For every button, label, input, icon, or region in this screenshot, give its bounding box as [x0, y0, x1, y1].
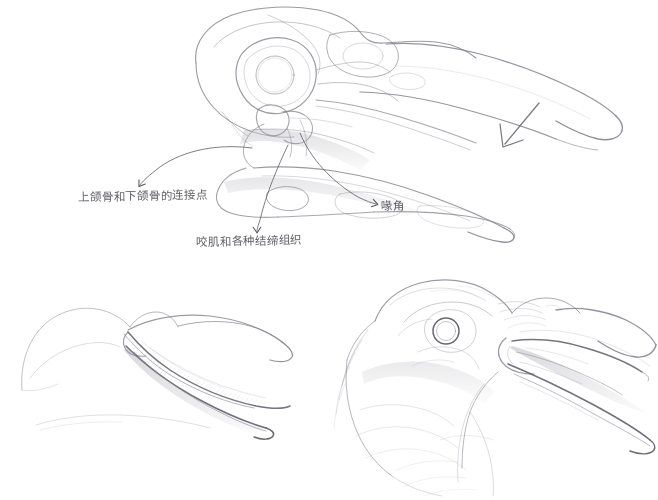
figure-skull-profile: [196, 7, 623, 242]
annotation-label-jaw-joint: 上颌骨和下颌骨的连接点: [78, 186, 208, 205]
annotation-label-beak-corner: 喙角: [381, 197, 405, 214]
leader-line-joint: [140, 147, 252, 185]
sketch-sheet: 上颌骨和下颌骨的连接点 咬肌和各种结缔组织 喙角: [0, 0, 658, 500]
figure-crow-head: [334, 280, 656, 496]
annotation-label-masseter-connective-tissue: 咬肌和各种结缔组织: [196, 231, 303, 249]
figure-open-beak-study: [22, 308, 293, 439]
pencil-drawing-canvas: [0, 0, 658, 500]
